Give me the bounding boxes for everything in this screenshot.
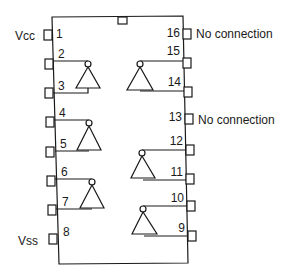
pin-14 — [184, 87, 192, 97]
pin-7 — [48, 205, 56, 215]
pin-13 — [185, 114, 193, 124]
inverter-triangle-icon — [80, 185, 104, 208]
pin-9-number: 9 — [178, 221, 185, 235]
pin-16 — [183, 29, 191, 39]
inverter-triangle-icon — [76, 67, 100, 88]
orientation-notch — [118, 17, 127, 24]
inverter-triangle-icon — [77, 126, 101, 150]
pin-16-no-connection-label: No connection — [196, 27, 273, 41]
pin-13-no-connection-label: No connection — [198, 113, 275, 127]
pin-5-number: 5 — [60, 137, 67, 151]
pin-3 — [45, 88, 53, 98]
pin-11 — [186, 174, 194, 184]
pin-2-number: 2 — [58, 47, 65, 61]
vcc-label: Vcc — [15, 29, 35, 43]
inverter-triangle-icon — [132, 212, 157, 234]
pin-5 — [46, 147, 54, 157]
inverter-triangle-icon — [127, 67, 153, 90]
right-pins: 16 No connection 15 14 13 No connection … — [167, 26, 275, 241]
pin-1 — [44, 30, 52, 40]
pin-15 — [183, 58, 191, 68]
inverter-triangle-icon — [131, 156, 155, 178]
pin-11-number: 11 — [171, 165, 184, 179]
pin-15-number: 15 — [167, 44, 181, 58]
pin-6 — [47, 176, 55, 186]
ic-pinout-diagram: 1 Vcc 2 3 4 5 6 7 8 Vss 16 No connection… — [0, 0, 293, 280]
pin-8-number: 8 — [63, 225, 70, 239]
pin-9 — [188, 231, 196, 241]
pin-12 — [186, 145, 194, 155]
left-pins: 1 Vcc 2 3 4 5 6 7 8 Vss — [15, 27, 70, 248]
pin-8 — [49, 234, 57, 244]
pin-16-number: 16 — [167, 26, 181, 40]
pin-12-number: 12 — [170, 134, 184, 148]
pin-10-number: 10 — [171, 191, 185, 205]
pin-10 — [187, 201, 195, 211]
pin-14-number: 14 — [168, 75, 182, 89]
pin-1-number: 1 — [56, 27, 63, 41]
pin-3-number: 3 — [58, 79, 65, 93]
pin-7-number: 7 — [62, 195, 69, 209]
vss-label: Vss — [18, 234, 38, 248]
pin-4 — [46, 117, 54, 127]
pin-2 — [45, 59, 53, 69]
pin-6-number: 6 — [61, 165, 68, 179]
pin-4-number: 4 — [59, 106, 66, 120]
pin-13-number: 13 — [169, 110, 183, 124]
